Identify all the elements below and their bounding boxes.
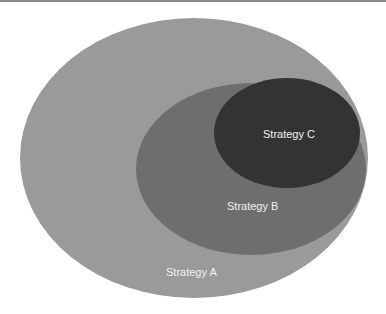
- strategy-a-label: Strategy A: [166, 266, 217, 278]
- strategy-b-label: Strategy B: [227, 200, 278, 212]
- venn-diagram: Strategy C Strategy B Strategy A: [0, 0, 386, 314]
- strategy-c-label: Strategy C: [263, 128, 315, 140]
